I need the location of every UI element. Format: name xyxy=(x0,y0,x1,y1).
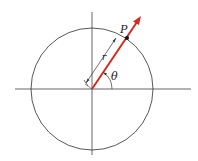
angle-label: θ xyxy=(111,70,118,83)
polar-diagram: r θ P xyxy=(0,0,198,161)
point-p xyxy=(125,36,129,40)
radius-label: r xyxy=(102,52,107,62)
ray-arrowhead-icon xyxy=(133,16,141,25)
point-label: P xyxy=(119,23,128,36)
